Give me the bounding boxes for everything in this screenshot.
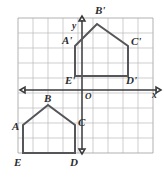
vertex-label-a: A (11, 120, 19, 132)
vertex-label-e-prime: E' (64, 74, 75, 86)
x-axis-label: x (151, 90, 157, 100)
vertex-label-a-prime: A' (61, 34, 72, 46)
y-axis-label: y (71, 21, 77, 31)
origin-label: O (85, 91, 92, 101)
vertex-label-d: D (69, 156, 78, 168)
vertex-label-c-prime: C' (131, 35, 141, 47)
vertex-label-b: B (43, 92, 51, 104)
vertex-label-c: C (78, 116, 86, 128)
coordinate-plane-figure: ABCDEA'B'C'D'E' x y O (0, 0, 164, 178)
vertex-label-e: E (13, 156, 21, 168)
vertex-label-d-prime: D' (125, 74, 137, 86)
vertex-label-b-prime: B' (94, 4, 105, 16)
coordinate-plane-svg: ABCDEA'B'C'D'E' x y O (0, 0, 164, 178)
